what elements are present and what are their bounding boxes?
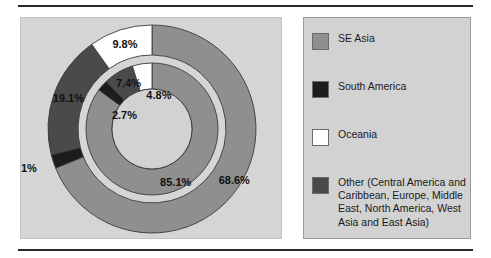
pct-label-outer-se-asia: 68.6% bbox=[219, 174, 250, 186]
bottom-horizontal-rule bbox=[18, 249, 473, 251]
legend-label-se-asia: SE Asia bbox=[338, 32, 375, 45]
legend-item-oceania: Oceania bbox=[312, 128, 377, 146]
pct-label-inner-oceania: 4.8% bbox=[146, 89, 171, 101]
pct-label-inner-se-asia: 85.1% bbox=[160, 176, 191, 188]
inner-ring bbox=[86, 63, 218, 195]
chart-plot-area: 68.6%2.1%19.1%9.8%85.1%2.7%7.4%4.8% bbox=[20, 17, 282, 239]
legend-swatch-oceania bbox=[312, 129, 329, 146]
legend-swatch-south-america bbox=[312, 81, 329, 98]
pct-label-inner-other: 7.4% bbox=[116, 77, 141, 89]
top-horizontal-rule bbox=[18, 5, 473, 7]
legend-swatch-se-asia bbox=[312, 33, 329, 50]
pct-label-outer-south-america: 2.1% bbox=[21, 162, 37, 174]
legend-label-other: Other (Central America and Caribbean, Eu… bbox=[338, 176, 466, 229]
nested-donut-chart: 68.6%2.1%19.1%9.8%85.1%2.7%7.4%4.8% bbox=[21, 18, 283, 240]
legend-label-south-america: South America bbox=[338, 80, 406, 93]
legend-item-other: Other (Central America and Caribbean, Eu… bbox=[312, 176, 466, 229]
figure-container: 68.6%2.1%19.1%9.8%85.1%2.7%7.4%4.8% SE A… bbox=[0, 0, 491, 258]
chart-legend: SE Asia South America Oceania Other (Cen… bbox=[303, 17, 471, 239]
pct-label-inner-south-america: 2.7% bbox=[112, 109, 137, 121]
pct-label-outer-other: 19.1% bbox=[53, 92, 84, 104]
legend-swatch-other bbox=[312, 177, 329, 194]
legend-item-se-asia: SE Asia bbox=[312, 32, 375, 50]
legend-item-south-america: South America bbox=[312, 80, 406, 98]
pct-label-outer-oceania: 9.8% bbox=[112, 38, 137, 50]
legend-label-oceania: Oceania bbox=[338, 128, 377, 141]
